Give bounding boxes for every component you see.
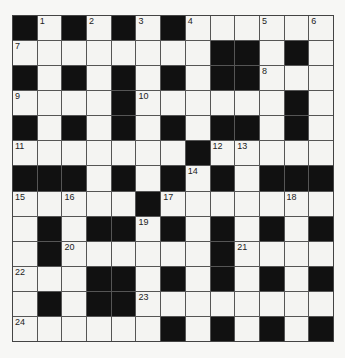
grid-cell[interactable] bbox=[136, 317, 160, 341]
grid-cell[interactable] bbox=[186, 116, 210, 140]
grid-cell[interactable] bbox=[309, 116, 333, 140]
grid-cell[interactable] bbox=[235, 217, 259, 241]
grid-cell[interactable]: 17 bbox=[161, 192, 185, 216]
grid-cell[interactable] bbox=[309, 91, 333, 115]
grid-cell[interactable] bbox=[62, 267, 86, 291]
grid-cell[interactable]: 19 bbox=[136, 217, 160, 241]
grid-cell[interactable] bbox=[260, 242, 284, 266]
grid-cell[interactable] bbox=[112, 242, 136, 266]
grid-cell[interactable]: 20 bbox=[62, 242, 86, 266]
grid-cell[interactable] bbox=[62, 91, 86, 115]
grid-cell[interactable] bbox=[161, 41, 185, 65]
grid-cell[interactable]: 22 bbox=[13, 267, 37, 291]
grid-cell[interactable] bbox=[309, 66, 333, 90]
grid-cell[interactable] bbox=[161, 242, 185, 266]
grid-cell[interactable] bbox=[235, 267, 259, 291]
grid-cell[interactable] bbox=[235, 192, 259, 216]
grid-cell[interactable]: 21 bbox=[235, 242, 259, 266]
grid-cell[interactable] bbox=[87, 192, 111, 216]
grid-cell[interactable] bbox=[38, 267, 62, 291]
grid-cell[interactable] bbox=[260, 141, 284, 165]
grid-cell[interactable] bbox=[211, 91, 235, 115]
grid-cell[interactable]: 4 bbox=[186, 16, 210, 40]
grid-cell[interactable] bbox=[235, 91, 259, 115]
grid-cell[interactable] bbox=[38, 192, 62, 216]
grid-cell[interactable] bbox=[186, 267, 210, 291]
grid-cell[interactable] bbox=[112, 192, 136, 216]
grid-cell[interactable]: 18 bbox=[285, 192, 309, 216]
grid-cell[interactable] bbox=[136, 41, 160, 65]
grid-cell[interactable] bbox=[62, 141, 86, 165]
grid-cell[interactable] bbox=[186, 192, 210, 216]
grid-cell[interactable]: 10 bbox=[136, 91, 160, 115]
grid-cell[interactable]: 5 bbox=[260, 16, 284, 40]
grid-cell[interactable] bbox=[309, 141, 333, 165]
grid-cell[interactable] bbox=[13, 217, 37, 241]
grid-cell[interactable] bbox=[285, 317, 309, 341]
grid-cell[interactable]: 13 bbox=[235, 141, 259, 165]
grid-cell[interactable] bbox=[87, 66, 111, 90]
grid-cell[interactable] bbox=[136, 141, 160, 165]
grid-cell[interactable]: 8 bbox=[260, 66, 284, 90]
grid-cell[interactable] bbox=[285, 242, 309, 266]
grid-cell[interactable]: 9 bbox=[13, 91, 37, 115]
grid-cell[interactable] bbox=[309, 192, 333, 216]
grid-cell[interactable] bbox=[87, 141, 111, 165]
grid-cell[interactable] bbox=[186, 91, 210, 115]
grid-cell[interactable] bbox=[38, 41, 62, 65]
grid-cell[interactable] bbox=[136, 166, 160, 190]
grid-cell[interactable] bbox=[112, 141, 136, 165]
grid-cell[interactable] bbox=[309, 41, 333, 65]
grid-cell[interactable] bbox=[285, 267, 309, 291]
grid-cell[interactable] bbox=[62, 41, 86, 65]
grid-cell[interactable] bbox=[161, 141, 185, 165]
grid-cell[interactable] bbox=[136, 242, 160, 266]
grid-cell[interactable] bbox=[38, 116, 62, 140]
grid-cell[interactable] bbox=[38, 317, 62, 341]
grid-cell[interactable] bbox=[260, 41, 284, 65]
grid-cell[interactable] bbox=[285, 217, 309, 241]
grid-cell[interactable] bbox=[38, 141, 62, 165]
grid-cell[interactable]: 15 bbox=[13, 192, 37, 216]
grid-cell[interactable]: 23 bbox=[136, 292, 160, 316]
grid-cell[interactable] bbox=[87, 91, 111, 115]
grid-cell[interactable] bbox=[13, 242, 37, 266]
grid-cell[interactable] bbox=[62, 317, 86, 341]
grid-cell[interactable] bbox=[87, 242, 111, 266]
grid-cell[interactable] bbox=[62, 217, 86, 241]
grid-cell[interactable] bbox=[211, 192, 235, 216]
grid-cell[interactable] bbox=[62, 292, 86, 316]
grid-cell[interactable] bbox=[186, 66, 210, 90]
grid-cell[interactable] bbox=[285, 66, 309, 90]
grid-cell[interactable] bbox=[38, 91, 62, 115]
grid-cell[interactable] bbox=[186, 292, 210, 316]
grid-cell[interactable]: 7 bbox=[13, 41, 37, 65]
grid-cell[interactable] bbox=[112, 41, 136, 65]
grid-cell[interactable]: 11 bbox=[13, 141, 37, 165]
grid-cell[interactable] bbox=[235, 16, 259, 40]
grid-cell[interactable] bbox=[186, 41, 210, 65]
grid-cell[interactable]: 14 bbox=[186, 166, 210, 190]
grid-cell[interactable] bbox=[211, 292, 235, 316]
grid-cell[interactable] bbox=[235, 292, 259, 316]
grid-cell[interactable]: 2 bbox=[87, 16, 111, 40]
grid-cell[interactable] bbox=[260, 91, 284, 115]
grid-cell[interactable] bbox=[285, 16, 309, 40]
grid-cell[interactable] bbox=[186, 217, 210, 241]
grid-cell[interactable] bbox=[186, 242, 210, 266]
grid-cell[interactable] bbox=[260, 192, 284, 216]
grid-cell[interactable] bbox=[13, 292, 37, 316]
grid-cell[interactable] bbox=[87, 116, 111, 140]
grid-cell[interactable] bbox=[38, 66, 62, 90]
grid-cell[interactable]: 16 bbox=[62, 192, 86, 216]
grid-cell[interactable] bbox=[87, 41, 111, 65]
grid-cell[interactable] bbox=[260, 116, 284, 140]
grid-cell[interactable] bbox=[186, 317, 210, 341]
grid-cell[interactable] bbox=[309, 242, 333, 266]
grid-cell[interactable] bbox=[309, 292, 333, 316]
grid-cell[interactable]: 6 bbox=[309, 16, 333, 40]
grid-cell[interactable]: 12 bbox=[211, 141, 235, 165]
grid-cell[interactable] bbox=[235, 317, 259, 341]
grid-cell[interactable] bbox=[87, 317, 111, 341]
grid-cell[interactable] bbox=[136, 267, 160, 291]
